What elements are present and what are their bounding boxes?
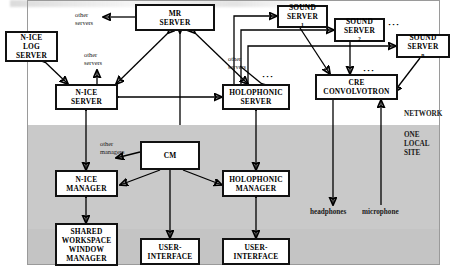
shared-workspace-line-4: MANAGER	[62, 254, 112, 263]
sound-server-2-subscript: 2	[344, 35, 375, 44]
nice-log-server-line-3: SERVER	[16, 51, 47, 60]
shared-workspace-line-2: WORKSPACE	[62, 236, 112, 245]
label-other-servers-right: other servers	[228, 55, 246, 70]
node-sound-server-2[interactable]: SOUND SERVER2	[334, 18, 385, 42]
sound-server-n-line-1: SOUND	[408, 33, 439, 42]
node-mr-server[interactable]: MR SERVER	[135, 4, 215, 31]
node-nice-manager[interactable]: N-ICE MANAGER	[55, 170, 118, 197]
edge-mr-server-nice-server	[116, 33, 168, 84]
user-interface-1-line-1: USER-	[148, 243, 193, 252]
label-one-local-site: ONE LOCAL SITE	[404, 131, 430, 158]
node-holophonic-manager[interactable]: HOLOPHONIC MANAGER	[222, 170, 290, 197]
local-site-line-2: LOCAL	[404, 140, 430, 149]
sound-server-2-line-2: SERVER2	[344, 26, 375, 44]
holophonic-manager-line-2: MANAGER	[229, 184, 283, 193]
node-cm[interactable]: CM	[140, 141, 200, 170]
node-holophonic-server[interactable]: HOLOPHONIC SERVER	[222, 84, 290, 110]
label-network: NETWORK	[404, 110, 442, 119]
other-servers-top-line-1: other	[75, 11, 93, 19]
holophonic-server-line-2: SERVER	[229, 97, 283, 106]
sound-server-1-subscript: 1	[287, 21, 318, 30]
mr-server-line-2: SERVER	[160, 18, 191, 27]
nice-manager-line-2: MANAGER	[66, 184, 106, 193]
nice-log-server-line-2: LOG	[16, 42, 47, 51]
local-site-line-3: SITE	[404, 149, 430, 158]
other-servers-right-line-2: servers	[228, 63, 246, 71]
nice-manager-line-1: N-ICE	[66, 175, 106, 184]
holophonic-server-line-1: HOLOPHONIC	[229, 88, 283, 97]
holophonic-manager-line-1: HOLOPHONIC	[229, 175, 283, 184]
sound-server-n-subscript: n	[408, 51, 439, 60]
label-headphones: headphones	[310, 208, 346, 217]
node-sound-server-n[interactable]: SOUND SERVERn	[396, 34, 450, 58]
user-interface-1-line-2: INTERFACE	[148, 252, 193, 261]
cre-convolvotron-line-2: CONVOLVOTRON	[323, 87, 389, 96]
cre-convolvotron-line-1: CRE	[323, 78, 389, 87]
cm-label: CM	[164, 151, 177, 160]
label-other-managers: other managers	[100, 140, 125, 155]
mr-server-line-1: MR	[160, 9, 191, 18]
other-managers-line-1: other	[100, 140, 125, 148]
edge-sound-server-1-cre	[300, 28, 330, 74]
other-servers-top-line-2: servers	[75, 19, 93, 27]
ellipsis-cre-inputs: ···	[363, 67, 375, 73]
node-shared-workspace-window-manager[interactable]: SHARED WORKSPACE WINDOW MANAGER	[55, 223, 118, 266]
node-user-interface-1[interactable]: USER- INTERFACE	[140, 238, 200, 265]
shared-workspace-line-1: SHARED	[62, 227, 112, 236]
other-servers-right-line-1: other	[228, 55, 246, 63]
sound-server-1-line-1: SOUND	[287, 3, 318, 12]
shared-workspace-line-3: WINDOW	[62, 245, 112, 254]
other-managers-line-2: managers	[100, 148, 125, 156]
ellipsis-holophonic-links: ···	[262, 73, 274, 79]
edge-cm-nice-manager	[120, 170, 160, 185]
other-servers-mid-line-1: other	[84, 51, 102, 59]
label-other-servers-mid: other servers	[84, 51, 102, 66]
edge-nice-log-server-nice-server	[45, 62, 68, 84]
node-user-interface-2[interactable]: USER- INTERFACE	[222, 238, 290, 265]
user-interface-2-line-1: USER-	[234, 243, 279, 252]
edge-cm-holophonic-manager	[183, 170, 222, 185]
label-microphone: microphone	[362, 208, 399, 217]
node-nice-log-server[interactable]: N-ICE LOG SERVER	[5, 31, 58, 62]
local-site-line-1: ONE	[404, 131, 430, 140]
label-other-servers-top: other servers	[75, 11, 93, 26]
node-nice-server[interactable]: N-ICE SERVER	[55, 84, 118, 110]
sound-server-n-line-2: SERVERn	[408, 42, 439, 60]
user-interface-2-line-2: INTERFACE	[234, 252, 279, 261]
node-cre-convolvotron[interactable]: CRE CONVOLVOTRON	[315, 74, 398, 100]
nice-server-line-2: SERVER	[71, 97, 102, 106]
sound-server-2-line-1: SOUND	[344, 17, 375, 26]
nice-server-line-1: N-ICE	[71, 88, 102, 97]
sound-server-1-line-2: SERVER1	[287, 12, 318, 30]
diagram-canvas: MR SERVER N-ICE LOG SERVER N-ICE SERVER …	[0, 0, 468, 273]
other-servers-mid-line-2: servers	[84, 59, 102, 67]
node-sound-server-1[interactable]: SOUND SERVER1	[277, 5, 328, 28]
nice-log-server-line-1: N-ICE	[16, 33, 47, 42]
ellipsis-sound-servers: ···	[388, 21, 400, 27]
